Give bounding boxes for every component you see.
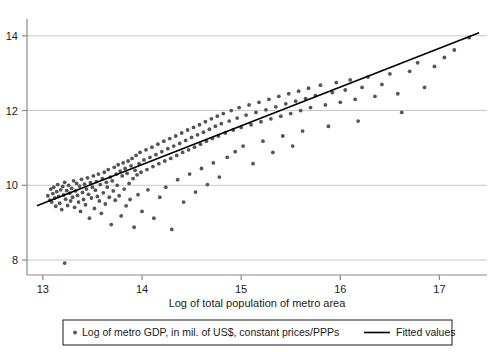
scatter-point — [95, 195, 99, 199]
scatter-point — [259, 120, 263, 124]
scatter-point — [319, 83, 323, 87]
scatter-point — [229, 109, 233, 113]
scatter-point — [219, 122, 223, 126]
scatter-point — [452, 48, 456, 52]
scatter-point — [297, 89, 301, 93]
scatter-point — [51, 192, 55, 196]
scatter-point — [101, 191, 105, 195]
scatter-point — [65, 189, 69, 193]
scatter-point — [104, 180, 108, 184]
scatter-point — [146, 188, 150, 192]
scatter-point — [123, 167, 127, 171]
scatter-point — [175, 154, 179, 158]
scatter-point — [257, 100, 261, 104]
scatter-point — [119, 214, 123, 218]
scatter-point — [113, 198, 117, 202]
scatter-point — [99, 211, 103, 215]
scatter-point — [182, 200, 186, 204]
scatter-point — [338, 100, 342, 104]
scatter-point — [78, 184, 82, 188]
scatter-point — [61, 185, 65, 189]
scatter-point — [148, 155, 152, 159]
scatter-point — [187, 148, 191, 152]
scatter-point — [287, 92, 291, 96]
scatter-point — [353, 97, 357, 101]
scatter-point — [151, 165, 155, 169]
scatter-point — [396, 92, 400, 96]
y-tick-label-12: 12 — [6, 105, 18, 117]
scatter-point — [111, 189, 115, 193]
x-axis-title: Log of total population of metro area — [169, 297, 347, 309]
scatter-point — [334, 81, 338, 85]
scatter-point — [400, 111, 404, 115]
scatter-point — [279, 114, 283, 118]
scatter-point — [83, 182, 87, 186]
scatter-point — [96, 172, 100, 176]
scatter-point — [59, 188, 63, 192]
scatter-point — [166, 147, 170, 151]
scatter-point — [86, 176, 90, 180]
y-tick-label-10: 10 — [6, 179, 18, 191]
scatter-point — [178, 142, 182, 146]
scatter-point — [77, 200, 81, 204]
scatter-point — [251, 162, 255, 166]
scatter-point — [247, 103, 251, 107]
scatter-point — [121, 161, 125, 165]
scatter-point — [132, 225, 136, 229]
scatter-point — [184, 139, 188, 143]
scatter-point — [92, 174, 96, 178]
scatter-point — [269, 117, 273, 121]
scatter-point — [174, 134, 178, 138]
scatter-point — [103, 202, 107, 206]
scatter-point — [170, 228, 174, 232]
scatter-point — [76, 194, 80, 198]
y-tick-label-14: 14 — [6, 30, 18, 42]
scatter-point — [233, 150, 237, 154]
scatter-point — [277, 94, 281, 98]
scatter-point — [254, 111, 258, 115]
scatter-point — [130, 157, 134, 161]
scatter-point — [200, 167, 204, 171]
scatter-point — [116, 163, 120, 167]
scatter-point — [267, 97, 271, 101]
scatter-point — [145, 168, 149, 172]
scatter-point — [221, 112, 225, 116]
scatter-point — [169, 157, 173, 161]
scatter-point — [193, 145, 197, 149]
scatter-point — [124, 204, 128, 208]
scatter-point — [69, 199, 73, 203]
scatter-point — [261, 139, 265, 143]
scatter-point — [134, 154, 138, 158]
scatter-point — [126, 159, 130, 163]
scatter-point — [152, 216, 156, 220]
scatter-point — [88, 216, 92, 220]
scatter-point — [58, 201, 62, 205]
scatter-point — [131, 177, 135, 181]
scatter-point — [206, 183, 210, 187]
scatter-point — [112, 165, 116, 169]
scatter-point — [198, 123, 202, 127]
scatter-point — [97, 199, 101, 203]
scatter-point — [289, 112, 293, 116]
scatter-point — [139, 170, 143, 174]
scatter-point — [84, 203, 88, 207]
scatter-point — [309, 106, 313, 110]
scatter-point — [408, 69, 412, 73]
scatter-point — [90, 196, 94, 200]
scatter-point — [211, 161, 215, 165]
scatter-point — [217, 175, 221, 179]
y-tick-label-8: 8 — [12, 254, 18, 266]
scatter-point — [180, 131, 184, 135]
x-tick-label-17: 17 — [433, 283, 445, 295]
scatter-point — [442, 56, 446, 60]
scatter-point — [324, 103, 328, 107]
scatter-point — [73, 205, 77, 209]
scatter-point — [241, 144, 245, 148]
scatter-point — [94, 188, 98, 192]
scatter-point — [75, 182, 79, 186]
scatter-point — [135, 173, 139, 177]
scatter-point — [176, 178, 180, 182]
scatter-plot-svg: 8101214 1314151617 Log of total populati… — [0, 0, 497, 352]
scatter-point — [98, 183, 102, 187]
scatter-point — [93, 207, 97, 211]
